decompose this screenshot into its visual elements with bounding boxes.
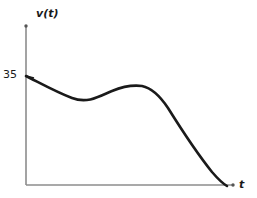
velocity-time-graph [0,0,257,198]
clipped-caption [0,190,257,198]
velocity-curve [26,76,227,186]
y-axis-arrow-icon [24,24,27,27]
y-axis-label: v(t) [36,8,58,19]
x-axis-arrow-icon [231,183,234,186]
y-tick-label-35: 35 [3,69,17,80]
x-axis-label: t [239,179,244,190]
